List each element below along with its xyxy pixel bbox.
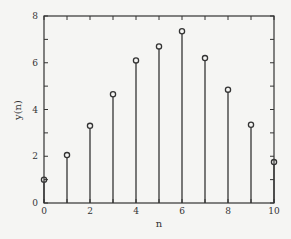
stem-marker bbox=[64, 152, 69, 157]
axis-tick-labels: 024681002468 bbox=[32, 11, 280, 216]
stem-marker bbox=[87, 123, 92, 128]
data-stems bbox=[41, 29, 276, 203]
stem-marker bbox=[179, 29, 184, 34]
x-tick-label: 8 bbox=[225, 206, 231, 216]
y-axis-label: y(n) bbox=[12, 100, 23, 121]
y-tick-label: 6 bbox=[32, 58, 38, 68]
x-tick-label: 4 bbox=[133, 206, 139, 216]
stem-marker bbox=[225, 87, 230, 92]
x-axis-label: n bbox=[156, 218, 163, 229]
y-tick-label: 0 bbox=[32, 198, 38, 208]
y-tick-label: 8 bbox=[32, 11, 38, 21]
y-tick-label: 2 bbox=[32, 151, 38, 161]
stem-marker bbox=[133, 58, 138, 63]
stem-plot: 024681002468 n y(n) bbox=[0, 0, 291, 239]
stem-marker bbox=[202, 55, 207, 60]
stem-marker bbox=[156, 44, 161, 49]
x-tick-label: 0 bbox=[41, 206, 47, 216]
x-tick-label: 2 bbox=[87, 206, 93, 216]
x-tick-label: 10 bbox=[268, 206, 280, 216]
stem-marker bbox=[248, 122, 253, 127]
y-tick-label: 4 bbox=[32, 105, 38, 115]
stem-marker bbox=[110, 92, 115, 97]
x-tick-label: 6 bbox=[179, 206, 185, 216]
